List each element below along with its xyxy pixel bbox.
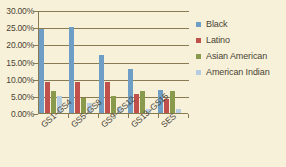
y-axis-tick-label: 0.00% [11,109,34,119]
x-axis-tick [128,114,129,118]
bar [170,91,175,113]
bar-chart: 0.00%5.00%10.00%15.00%20.00%25.00%30.00%… [0,0,286,167]
legend-swatch-icon [196,22,201,27]
x-axis-tick [158,114,159,118]
bar [176,109,181,113]
y-axis-tick-label: 25.00% [6,23,34,33]
legend-swatch-icon [196,70,201,75]
legend-label: Asian American [206,51,267,61]
y-axis: 0.00%5.00%10.00%15.00%20.00%25.00%30.00% [0,0,38,120]
legend-item[interactable]: Black [196,16,284,32]
bar [75,82,80,113]
y-axis-tick-label: 30.00% [6,6,34,16]
x-axis-category-label: SES [159,111,178,129]
legend-item[interactable]: Latino [196,32,284,48]
x-axis: GS1–GS4GS5–GS8GS9–GS12GS13–GS15SES [38,114,188,167]
bar [39,29,44,113]
y-axis-tick-label: 15.00% [6,58,34,68]
bar [105,82,110,113]
bar [45,82,50,113]
legend-item[interactable]: American Indian [196,64,284,80]
legend-swatch-icon [196,54,201,59]
x-axis-tick [188,114,189,118]
legend-swatch-icon [196,38,201,43]
y-axis-tick-label: 10.00% [6,75,34,85]
y-axis-tick-label: 5.00% [11,92,34,102]
legend-label: Latino [206,35,230,45]
legend-label: Black [206,19,228,29]
legend-label: American Indian [206,67,270,77]
legend: BlackLatinoAsian AmericanAmerican Indian [196,16,284,80]
x-axis-tick [68,114,69,118]
legend-item[interactable]: Asian American [196,48,284,64]
x-axis-tick [98,114,99,118]
y-axis-tick-label: 20.00% [6,40,34,50]
bar [134,94,139,113]
